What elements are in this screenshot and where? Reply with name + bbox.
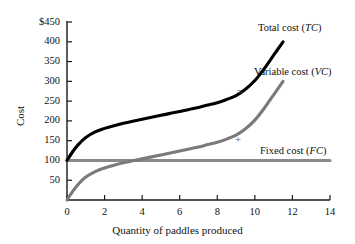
annotation-symbol: +: [235, 133, 241, 145]
series-abbr-fc: FC: [310, 145, 323, 156]
tick-marks: [67, 22, 330, 200]
series-label-tc: Total cost (TC): [258, 22, 321, 33]
annotation-symbol: =: [237, 85, 243, 97]
y-tick-label: 400: [18, 36, 60, 47]
series-label-fc: Fixed cost (FC): [260, 145, 327, 156]
x-tick-label: 4: [128, 207, 156, 218]
y-tick-label: $450: [18, 17, 60, 28]
x-tick-label: 6: [166, 207, 194, 218]
y-tick-label: 250: [18, 96, 60, 107]
x-tick-label: 14: [316, 207, 344, 218]
cost-curves-chart: 50100150200250300350400$450 02468101214 …: [0, 0, 355, 244]
series-line-tc: [67, 42, 283, 161]
y-tick-label: 150: [18, 135, 60, 146]
series-abbr-tc: TC: [305, 22, 318, 33]
axes: [67, 21, 330, 200]
x-tick-label: 12: [278, 207, 306, 218]
y-tick-label: 100: [18, 155, 60, 166]
x-tick-label: 8: [203, 207, 231, 218]
y-tick-label: 50: [18, 175, 60, 186]
y-axis-title: Cost: [14, 106, 26, 126]
x-tick-label: 10: [241, 207, 269, 218]
x-tick-label: 0: [53, 207, 81, 218]
series-label-vc: Variable cost (VC): [254, 66, 332, 77]
x-tick-label: 2: [91, 207, 119, 218]
series-abbr-vc: VC: [315, 66, 328, 77]
series-line-vc: [67, 81, 283, 200]
x-axis-title: Quantity of paddles produced: [0, 224, 355, 236]
y-tick-label: 350: [18, 56, 60, 67]
y-tick-label: 300: [18, 76, 60, 87]
